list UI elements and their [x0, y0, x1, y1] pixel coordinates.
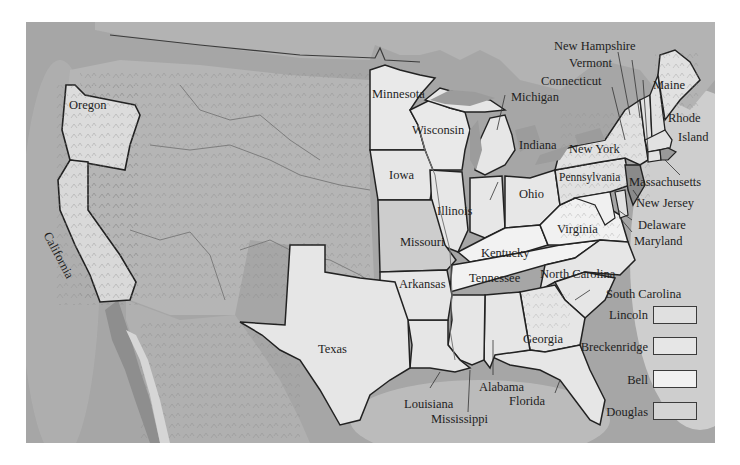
map-frame: Oregon California Minnesota Wisconsin Mi… [26, 22, 715, 443]
label-texas: Texas [318, 343, 347, 356]
label-delaware: Delaware [638, 219, 686, 232]
label-maryland: Maryland [634, 235, 683, 248]
label-alabama: Alabama [479, 381, 524, 394]
label-michigan: Michigan [511, 91, 559, 104]
label-virginia: Virginia [557, 223, 598, 236]
label-new-york: New York [569, 143, 620, 156]
label-oregon: Oregon [69, 99, 107, 112]
label-iowa: Iowa [389, 169, 414, 182]
legend-label-douglas: Douglas [558, 406, 648, 419]
label-kentucky: Kentucky [481, 247, 530, 260]
legend-swatch-lincoln [653, 306, 697, 324]
label-tennessee: Tennessee [469, 272, 520, 285]
state-connecticut [648, 150, 661, 162]
label-illinois: Illinois [437, 205, 472, 218]
label-north-carolina: North Carolina [540, 268, 615, 281]
label-massachusetts: Massachusetts [629, 176, 701, 189]
label-missouri: Missouri [400, 236, 444, 249]
label-louisiana: Louisiana [404, 398, 453, 411]
legend-label-lincoln: Lincoln [558, 309, 648, 322]
legend-label-bell: Bell [558, 374, 648, 387]
label-rhode-island-line2: Island [678, 131, 709, 144]
label-vermont: Vermont [569, 57, 612, 70]
label-new-hampshire: New Hampshire [554, 40, 636, 53]
label-indiana: Indiana [519, 139, 556, 152]
legend-swatch-douglas [653, 402, 697, 420]
label-florida: Florida [509, 395, 545, 408]
label-minnesota: Minnesota [372, 88, 425, 101]
legend-label-breckenridge: Breckenridge [558, 341, 648, 354]
label-ohio: Ohio [519, 188, 544, 201]
label-connecticut: Connecticut [541, 75, 601, 88]
label-arkansas: Arkansas [399, 278, 446, 291]
label-new-jersey: New Jersey [636, 197, 694, 210]
legend-swatch-breckenridge [653, 337, 697, 355]
legend-swatch-bell [653, 370, 697, 388]
label-maine: Maine [653, 79, 685, 92]
label-mississippi: Mississippi [431, 413, 488, 426]
label-rhode-island-line1: Rhode [668, 112, 701, 125]
label-pennsylvania: Pennsylvania [559, 172, 620, 184]
label-south-carolina: South Carolina [606, 288, 681, 301]
label-wisconsin: Wisconsin [412, 124, 464, 137]
state-indiana [470, 176, 505, 238]
